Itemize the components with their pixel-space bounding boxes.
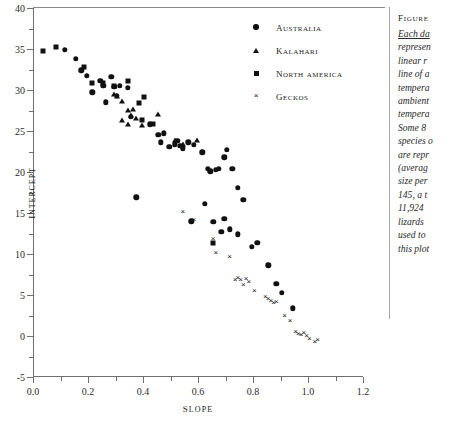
x-tick-label: 1.2 <box>357 386 370 397</box>
data-point-australia <box>290 305 295 310</box>
y-tick-minor <box>29 152 33 153</box>
data-point-geckos <box>212 248 219 255</box>
data-point-north-america <box>54 44 59 49</box>
y-axis-label: Intercept <box>23 167 39 219</box>
data-point-australia <box>235 185 240 190</box>
legend-item-geckos[interactable]: ×Geckos <box>248 87 343 105</box>
square-marker-icon <box>248 71 264 76</box>
legend-item-label: North America <box>276 66 343 81</box>
data-point-kalahari <box>172 138 178 143</box>
data-point-north-america <box>101 80 106 85</box>
y-tick-label: 10 <box>15 249 25 260</box>
x-tick-label: 0.8 <box>247 386 260 397</box>
y-tick-label: 0 <box>20 331 25 342</box>
data-point-australia <box>279 290 284 295</box>
data-point-kalahari <box>194 138 200 143</box>
data-point-australia <box>62 47 67 52</box>
data-point-kalahari <box>180 142 186 147</box>
caption-divider-rule <box>389 7 390 319</box>
x-tick-major <box>363 377 364 383</box>
caption-line: represen <box>398 40 464 53</box>
data-point-australia <box>221 216 226 221</box>
y-tick-minor <box>29 234 33 235</box>
data-point-north-america <box>81 65 86 70</box>
y-tick-major <box>27 49 33 50</box>
data-point-australia <box>216 166 221 171</box>
data-point-north-america <box>139 117 144 122</box>
data-point-geckos <box>273 297 280 304</box>
caption-line: Some 8 <box>398 121 464 134</box>
data-point-australia <box>254 240 259 245</box>
data-point-north-america <box>40 49 45 54</box>
x-tick-label: 0.4 <box>137 386 150 397</box>
legend-item-north-america[interactable]: North America <box>248 64 343 82</box>
data-point-north-america <box>150 121 155 126</box>
x-tick-major <box>33 377 34 383</box>
data-point-geckos <box>210 235 217 242</box>
x-tick-minor <box>336 377 337 381</box>
cross-marker-icon: × <box>248 92 264 100</box>
data-point-australia <box>249 244 254 249</box>
data-point-australia <box>109 74 114 79</box>
x-tick-minor <box>116 377 117 381</box>
y-tick-minor <box>29 357 33 358</box>
legend-item-label: Geckos <box>276 89 308 104</box>
x-tick-label: 0.6 <box>192 386 205 397</box>
caption-body: Each darepresenlinear rline of atemperaa… <box>398 27 464 255</box>
data-point-australia <box>103 100 108 105</box>
x-tick-major <box>253 377 254 383</box>
data-point-kalahari <box>119 98 125 103</box>
data-point-australia <box>235 232 240 237</box>
data-point-australia <box>227 227 232 232</box>
data-point-australia <box>125 85 130 90</box>
data-point-north-america <box>136 101 141 106</box>
y-tick-major <box>27 8 33 9</box>
y-tick-label: 40 <box>15 3 25 14</box>
caption-line: (averag <box>398 161 464 174</box>
y-tick-label: 25 <box>15 126 25 137</box>
caption-line: 11,924 <box>398 201 464 214</box>
y-tick-minor <box>29 275 33 276</box>
y-tick-label: 30 <box>15 85 25 96</box>
chart-legend: AustraliaKalahariNorth America×Geckos <box>248 18 343 110</box>
legend-item-kalahari[interactable]: Kalahari <box>248 41 343 59</box>
caption-line: tempera <box>398 107 464 120</box>
data-point-kalahari <box>139 123 145 128</box>
y-tick-major <box>27 254 33 255</box>
data-point-australia <box>84 73 89 78</box>
legend-item-australia[interactable]: Australia <box>248 18 343 36</box>
x-tick-label: 0.0 <box>27 386 40 397</box>
caption-line: line of a <box>398 67 464 80</box>
data-point-kalahari <box>130 106 136 111</box>
plot-column: 4035302520151050-5 0.00.20.40.60.81.01.2… <box>0 0 390 429</box>
data-point-australia <box>221 155 226 160</box>
data-point-geckos <box>287 317 294 324</box>
data-point-australia <box>89 90 94 95</box>
caption-line: are repr <box>398 148 464 161</box>
x-tick-minor <box>281 377 282 381</box>
data-point-australia <box>161 131 166 136</box>
caption-title: Figure <box>398 10 464 25</box>
y-tick-major <box>27 131 33 132</box>
figure-caption: Figure Each darepresenlinear rline of at… <box>398 10 464 330</box>
y-tick-label: 5 <box>20 290 25 301</box>
x-tick-major <box>308 377 309 383</box>
data-point-north-america <box>90 81 95 86</box>
y-tick-minor <box>29 70 33 71</box>
data-point-australia <box>133 195 138 200</box>
data-point-australia <box>230 166 235 171</box>
caption-line: lizards <box>398 215 464 228</box>
data-point-australia <box>224 147 229 152</box>
legend-item-label: Australia <box>276 20 322 35</box>
x-tick-major <box>198 377 199 383</box>
caption-line: species o <box>398 134 464 147</box>
x-tick-minor <box>61 377 62 381</box>
y-tick-major <box>27 295 33 296</box>
x-tick-major <box>143 377 144 383</box>
data-point-australia <box>166 144 171 149</box>
caption-line: 145, a t <box>398 188 464 201</box>
y-tick-label: 35 <box>15 44 25 55</box>
data-point-kalahari <box>125 121 131 126</box>
caption-line: used to <box>398 228 464 241</box>
data-point-geckos <box>179 207 186 214</box>
